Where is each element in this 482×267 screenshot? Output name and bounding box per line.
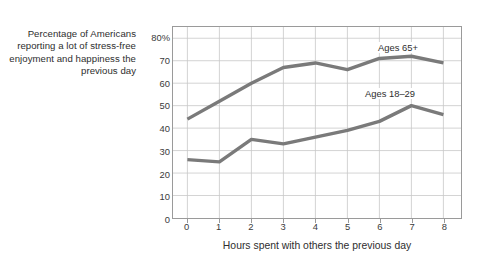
y-axis-title: Percentage of Americans reporting a lot … [8, 28, 136, 78]
x-tick-mark [251, 219, 252, 223]
y-tick-label: 10 [138, 191, 170, 202]
plot-svg [173, 27, 461, 218]
y-tick-label: 70 [138, 55, 170, 66]
x-axis-tick-labels: 012345678 [172, 221, 462, 237]
x-tick-mark [187, 219, 188, 223]
x-tick-mark [219, 219, 220, 223]
x-tick-mark [380, 219, 381, 223]
x-tick-mark [348, 219, 349, 223]
chart-figure: Percentage of Americans reporting a lot … [0, 0, 482, 267]
gridlines [173, 27, 461, 218]
series-label-ages-65-plus: Ages 65+ [377, 42, 419, 53]
y-tick-label: 20 [138, 168, 170, 179]
y-tick-label: 0 [138, 214, 170, 225]
plot-area [172, 26, 462, 219]
x-tick-mark [412, 219, 413, 223]
x-axis-title: Hours spent with others the previous day [172, 240, 462, 251]
y-tick-label: 40 [138, 123, 170, 134]
y-tick-label: 50 [138, 100, 170, 111]
y-tick-label: 60 [138, 77, 170, 88]
y-tick-label: 30 [138, 145, 170, 156]
y-tick-label: 80% [138, 32, 170, 43]
x-tick-mark [283, 219, 284, 223]
series-label-ages-18-29: Ages 18–29 [364, 88, 416, 99]
x-tick-mark [444, 219, 445, 223]
x-tick-mark [315, 219, 316, 223]
y-axis-tick-labels: 01020304050607080% [138, 0, 170, 267]
